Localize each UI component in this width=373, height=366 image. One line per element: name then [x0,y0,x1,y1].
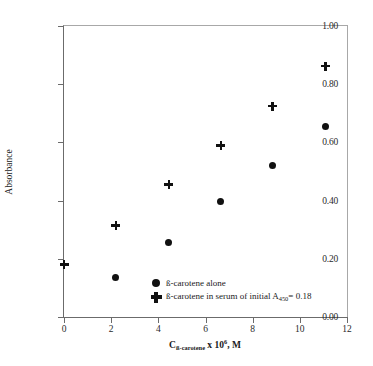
y-axis-title: Absorbance [4,149,14,194]
y-axis-tick [58,201,64,202]
y-axis-tick-label: 1.00 [322,21,338,31]
data-point-plus [60,260,69,269]
legend-marker-plus-icon [150,290,166,304]
x-axis-tick [206,317,207,323]
x-axis-title-tail: , M [227,340,241,350]
y-axis-tick [58,84,64,85]
x-axis-tick [111,317,112,323]
scatter-plot-figure: 0.000.200.400.600.801.00 024681012 Absor… [0,0,373,366]
x-axis-tick-label: 4 [156,324,161,334]
x-axis-tick [158,317,159,323]
x-axis-title-subscript: ß-carotene [176,344,205,351]
data-point-plus [321,62,330,71]
legend-label-plus-subscript: 450 [279,295,289,302]
legend-label-circle-text: ß-carotene alone [166,278,226,288]
y-axis-tick-label: 0.80 [322,79,338,89]
data-point-circle [217,198,224,205]
x-axis-tick [253,317,254,323]
y-axis-tick-label: 0.20 [322,254,338,264]
legend-entry-plus: ß-carotene in serum of initial A450= 0.1… [150,290,311,304]
x-axis-tick-label: 8 [250,324,255,334]
y-axis-tick-label: 0.00 [322,312,338,322]
y-axis-tick-label: 0.60 [322,137,338,147]
data-point-plus [268,102,277,111]
y-axis-tick [58,26,64,27]
data-point-plus [216,141,225,150]
x-axis-tick-label: 0 [62,324,67,334]
legend-marker-filled-circle-icon [150,276,166,290]
data-point-circle [112,274,119,281]
x-axis-tick-label: 6 [203,324,208,334]
y-axis-tick-label: 0.40 [322,196,338,206]
y-axis-tick [58,142,64,143]
plot-area: 0.000.200.400.600.801.00 024681012 [63,25,348,318]
x-axis-tick-label: 2 [109,324,114,334]
data-point-circle [269,162,276,169]
x-axis-title-symbol: C [169,340,176,350]
x-axis-title: Cß-carotene x 106, M [169,338,241,351]
data-point-plus [111,221,120,230]
legend: ß-carotene alone ß-carotene in serum of … [150,276,311,304]
x-axis-title-middle: x 10 [205,340,224,350]
x-axis-tick [64,317,65,323]
legend-label-plus-prefix: ß-carotene in serum of initial A [166,291,279,301]
legend-label-plus-suffix: = 0.18 [288,291,311,301]
legend-label-plus: ß-carotene in serum of initial A450= 0.1… [166,289,311,306]
data-point-circle [165,239,172,246]
x-axis-tick-label: 10 [295,324,305,334]
x-axis-tick [300,317,301,323]
data-point-circle [322,123,329,130]
x-axis-tick-label: 12 [342,324,352,334]
x-axis-tick [347,317,348,323]
data-point-plus [164,180,173,189]
